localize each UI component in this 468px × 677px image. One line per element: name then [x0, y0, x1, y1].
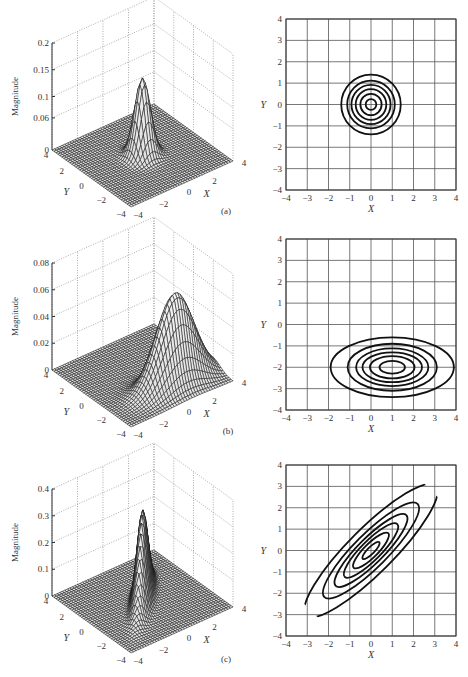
x-tick-label: 0 [187, 187, 192, 197]
x-tick-label: 4 [242, 158, 247, 168]
surface-plot-c: 00.10.20.30.4Magnitude420−2−4−4−2024YX [10, 443, 247, 666]
x-axis-label: X [202, 408, 210, 419]
x-tick-label: 2 [411, 639, 416, 649]
y-axis-label: Y [64, 406, 71, 417]
x-tick-label: 4 [454, 413, 459, 423]
z-axis-label: Magnitude [10, 77, 20, 116]
x-tick-label: 2 [212, 176, 217, 186]
y-tick-label: 1 [278, 298, 283, 308]
y-tick-label: −2 [272, 588, 282, 598]
x-tick-label: −4 [281, 413, 291, 423]
y-tick-label: −2 [272, 142, 282, 152]
y-tick-label: 3 [278, 481, 283, 491]
x-tick-label: 2 [411, 413, 416, 423]
x-axis-label: X [367, 203, 375, 214]
y-tick-label: 2 [60, 166, 65, 176]
y-tick-label: 0 [79, 181, 84, 191]
x-tick-label: 0 [187, 633, 192, 643]
x-tick-label: 4 [454, 639, 459, 649]
z-tick-label: 0.06 [33, 285, 49, 295]
y-tick-label: 3 [278, 35, 283, 45]
y-axis-label: Y [260, 319, 267, 330]
y-tick-label: −2 [96, 415, 106, 425]
surface-plot-b: 00.020.040.060.08Magnitude420−2−4−4−2024… [10, 217, 247, 440]
y-tick-label: −1 [272, 341, 282, 351]
y-axis-label: Y [260, 545, 267, 556]
x-tick-label: 0 [369, 193, 374, 203]
y-tick-label: −1 [272, 121, 282, 131]
y-axis-label: Y [260, 99, 267, 110]
y-tick-label: −4 [272, 405, 282, 415]
y-tick-label: −4 [272, 185, 282, 195]
y-tick-label: −4 [116, 655, 126, 665]
y-tick-label: 2 [60, 612, 65, 622]
figure-canvas: 00.060.10.150.2Magnitude420−2−4−4−2024YX… [0, 0, 468, 677]
x-axis-label: X [202, 188, 210, 199]
x-tick-label: 1 [390, 193, 395, 203]
z-tick-label: 0.04 [33, 312, 49, 322]
x-tick-label: −2 [324, 193, 334, 203]
x-tick-label: −3 [302, 413, 312, 423]
z-tick-label: 0.2 [38, 538, 49, 548]
x-tick-label: 0 [369, 413, 374, 423]
y-tick-label: −4 [116, 429, 126, 439]
x-axis-label: X [202, 634, 210, 645]
x-tick-label: −4 [133, 656, 143, 666]
x-tick-label: −2 [159, 419, 169, 429]
y-tick-label: 4 [44, 150, 49, 160]
y-tick-label: −2 [272, 362, 282, 372]
y-tick-label: 0 [278, 546, 283, 556]
x-tick-label: 2 [212, 622, 217, 632]
x-tick-label: 2 [212, 396, 217, 406]
y-tick-label: 2 [278, 277, 283, 287]
x-tick-label: 4 [242, 604, 247, 614]
x-tick-label: −2 [159, 199, 169, 209]
y-tick-label: 4 [278, 234, 283, 244]
x-tick-label: −4 [281, 193, 291, 203]
z-tick-label: 0.15 [33, 65, 49, 75]
y-tick-label: 2 [278, 57, 283, 67]
z-tick-label: 0.4 [38, 484, 50, 494]
y-tick-label: 4 [278, 14, 283, 24]
x-tick-label: 3 [433, 639, 438, 649]
panel-label: (a) [221, 206, 231, 216]
y-tick-label: −3 [272, 164, 282, 174]
z-tick-label: 0.2 [38, 38, 49, 48]
x-tick-label: 3 [433, 193, 438, 203]
panel-label: (c) [221, 654, 231, 664]
x-axis-label: X [367, 423, 375, 434]
x-tick-label: −4 [133, 210, 143, 220]
x-tick-label: 1 [390, 639, 395, 649]
y-tick-label: 2 [60, 386, 65, 396]
y-tick-label: −2 [96, 195, 106, 205]
y-tick-label: 1 [278, 524, 283, 534]
x-tick-label: −2 [159, 645, 169, 655]
surface-plot-a: 00.060.10.150.2Magnitude420−2−4−4−2024YX [10, 0, 247, 220]
x-tick-label: −1 [345, 639, 355, 649]
y-tick-label: −4 [116, 209, 126, 219]
x-tick-label: 4 [454, 193, 459, 203]
y-tick-label: 4 [278, 460, 283, 470]
y-tick-label: 4 [44, 370, 49, 380]
z-tick-label: 0.08 [33, 258, 49, 268]
y-tick-label: 0 [278, 320, 283, 330]
x-tick-label: −4 [281, 639, 291, 649]
y-tick-label: 4 [44, 596, 49, 606]
y-tick-label: 1 [278, 78, 283, 88]
x-tick-label: 1 [390, 413, 395, 423]
x-tick-label: −3 [302, 193, 312, 203]
x-tick-label: −2 [324, 639, 334, 649]
y-tick-label: −3 [272, 384, 282, 394]
z-tick-label: 0.1 [38, 92, 49, 102]
x-tick-label: 2 [411, 193, 416, 203]
x-tick-label: −3 [302, 639, 312, 649]
z-tick-label: 0.3 [38, 511, 50, 521]
y-tick-label: −4 [272, 631, 282, 641]
z-tick-label: 0.1 [38, 564, 49, 574]
z-axis-label: Magnitude [10, 297, 20, 336]
y-tick-label: 0 [79, 627, 84, 637]
x-tick-label: 0 [369, 639, 374, 649]
x-tick-label: 0 [187, 407, 192, 417]
y-tick-label: −1 [272, 567, 282, 577]
y-tick-label: 0 [79, 401, 84, 411]
